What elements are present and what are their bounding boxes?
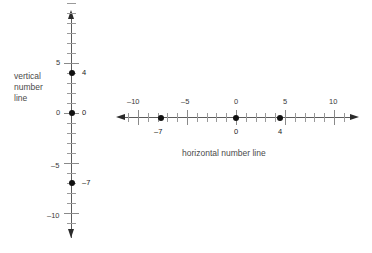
vertical-tick-9 (67, 23, 76, 24)
horizontal-tick-9 (324, 113, 325, 122)
horizontal-axis-arrow-right-icon (350, 114, 359, 120)
horizontal-tick--9 (148, 113, 149, 122)
vertical-tick--5 (64, 163, 79, 164)
horizontal-point-label-neg7: –7 (154, 127, 162, 136)
horizontal-tick-2 (256, 113, 257, 122)
vertical-tick-5 (64, 63, 79, 64)
vertical-axis-line (71, 18, 72, 238)
horizontal-tick--3 (207, 113, 208, 122)
horizontal-point-4 (277, 115, 283, 121)
vertical-tick--10 (64, 213, 79, 214)
horizontal-tick-label-neg10: –10 (127, 97, 140, 106)
vertical-axis-arrow-up-icon (68, 10, 74, 19)
vertical-caption-line-3: line (14, 93, 27, 104)
vertical-tick-3 (67, 83, 76, 84)
horizontal-tick--11 (128, 113, 129, 122)
horizontal-tick-5 (285, 110, 286, 125)
vertical-axis-arrow-down-icon (68, 229, 74, 238)
horizontal-tick--4 (197, 113, 198, 122)
horizontal-tick-1 (246, 113, 247, 122)
horizontal-tick--1 (226, 113, 227, 122)
horizontal-tick--10 (138, 110, 139, 125)
vertical-tick-1 (67, 103, 76, 104)
horizontal-point-label-0: 0 (234, 127, 238, 136)
horizontal-point-label-4: 4 (278, 127, 282, 136)
vertical-tick--11 (67, 223, 76, 224)
vertical-tick--1 (67, 123, 76, 124)
vertical-point-0 (69, 110, 75, 116)
horizontal-tick-11 (344, 113, 345, 122)
vertical-point-4 (69, 70, 75, 76)
horizontal-number-line: –10 –5 0 5 10 –7 0 4 horizontal number l… (110, 80, 372, 170)
horizontal-tick-label-10: 10 (329, 97, 337, 106)
vertical-tick-6 (67, 53, 76, 54)
horizontal-tick-label-0: 0 (234, 97, 238, 106)
horizontal-tick--5 (187, 110, 188, 125)
horizontal-tick-3 (265, 113, 266, 122)
horizontal-point-neg7 (158, 115, 164, 121)
horizontal-caption: horizontal number line (182, 148, 266, 159)
vertical-point-label-4: 4 (82, 68, 86, 77)
vertical-tick-label-5: 5 (56, 58, 60, 67)
horizontal-tick-7 (305, 113, 306, 122)
horizontal-tick--7 (167, 113, 168, 122)
horizontal-point-0 (233, 115, 239, 121)
horizontal-tick-label-5: 5 (283, 97, 287, 106)
vertical-tick-10 (67, 13, 76, 14)
horizontal-tick--6 (177, 113, 178, 122)
horizontal-axis-arrow-left-icon (116, 114, 125, 120)
horizontal-tick--2 (216, 113, 217, 122)
vertical-tick-label-neg5: –5 (51, 161, 59, 170)
vertical-tick--2 (67, 133, 76, 134)
horizontal-tick-label-neg5: –5 (181, 97, 189, 106)
figure-canvas: 5 0 –5 –10 4 0 –7 vertical number line –… (0, 0, 372, 253)
vertical-tick-11 (67, 3, 76, 4)
vertical-caption-line-2: number (14, 82, 43, 93)
vertical-point-label-neg7: –7 (82, 178, 90, 187)
vertical-point-neg7 (69, 180, 75, 186)
vertical-tick--9 (67, 203, 76, 204)
vertical-tick--8 (67, 193, 76, 194)
vertical-tick-label-0: 0 (56, 108, 60, 117)
vertical-tick--4 (67, 153, 76, 154)
horizontal-tick-6 (295, 113, 296, 122)
vertical-caption-line-1: vertical (14, 71, 41, 82)
vertical-tick--3 (67, 143, 76, 144)
horizontal-tick-10 (334, 110, 335, 125)
horizontal-tick-8 (314, 113, 315, 122)
vertical-tick-label-neg10: –10 (47, 211, 60, 220)
vertical-tick-7 (67, 43, 76, 44)
vertical-tick-8 (67, 33, 76, 34)
vertical-tick--6 (67, 173, 76, 174)
vertical-point-label-0: 0 (82, 108, 86, 117)
vertical-tick-2 (67, 93, 76, 94)
